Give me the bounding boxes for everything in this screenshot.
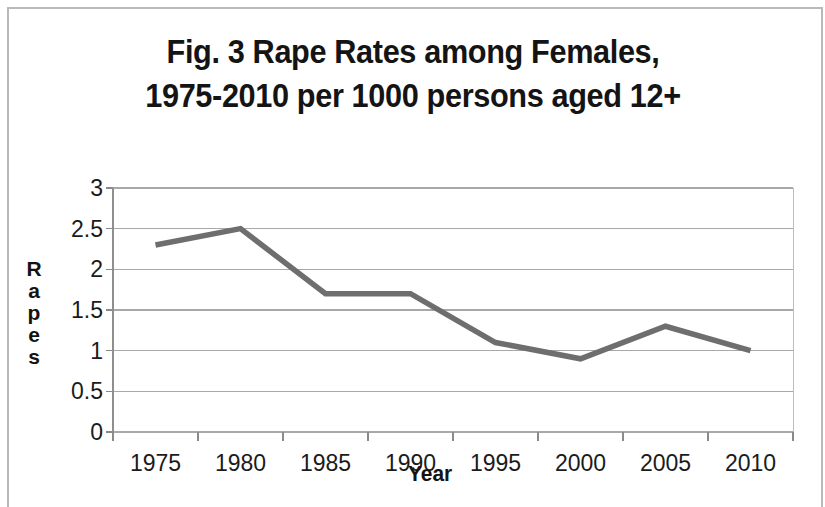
x-axis-tick-label: 2005	[623, 449, 708, 477]
y-axis-tick-label: 1.5	[35, 298, 103, 322]
x-axis-tick-label: 2010	[708, 449, 793, 477]
x-axis-tick-label: 2000	[538, 449, 623, 477]
y-axis-tick-label: 2.5	[35, 217, 103, 241]
x-axis-tick-labels: 19751980198519901995200020052010	[113, 449, 793, 479]
x-axis-tick-label: 1995	[453, 449, 538, 477]
x-axis-tick-label: 1985	[283, 449, 368, 477]
x-axis-title: Year	[408, 462, 452, 486]
plot-area	[113, 188, 793, 432]
line-chart-svg	[113, 188, 793, 432]
x-axis-tick-label: 1980	[198, 449, 283, 477]
chart-title: Fig. 3 Rape Rates among Females, 1975-20…	[57, 30, 769, 118]
y-axis-tick-label: 0.5	[35, 379, 103, 403]
x-axis-tick-label: 1975	[113, 449, 198, 477]
y-axis-tick-label: 1	[35, 339, 103, 363]
data-series-line	[156, 229, 751, 359]
y-axis-tick-label: 3	[35, 176, 103, 200]
y-axis-tick-label: 0	[35, 420, 103, 444]
y-axis-tick-label: 2	[35, 257, 103, 281]
